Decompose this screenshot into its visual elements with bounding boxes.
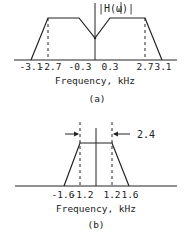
panel-a-tick: -0.3: [69, 61, 92, 72]
panel-b-tick: 1.2: [103, 189, 120, 200]
panel-a-center-dot: [94, 37, 96, 39]
panel-b-tick: -1.2: [71, 189, 94, 200]
panel-a-tick: 0.3: [101, 61, 118, 72]
arrow-left-icon: [113, 132, 130, 137]
panel-a-ylabel: |H(ω)|: [98, 3, 134, 15]
panel-a: |H(ω)| -3.1 -2.7 -0.3 0.3 2.7 3.1 Freque…: [14, 2, 177, 104]
panel-b-xlabel: Frequency, kHz: [56, 203, 136, 214]
panel-a-tick: 2.7: [136, 61, 153, 72]
panel-a-response-curve: [31, 18, 162, 60]
filter-response-diagram: |H(ω)| -3.1 -2.7 -0.3 0.3 2.7 3.1 Freque…: [0, 0, 189, 232]
panel-b-tick: 1.6: [121, 189, 138, 200]
panel-b: 2.4 -1.6 -1.2 1.2 1.6 Frequency, kHz (b): [15, 122, 177, 230]
panel-a-caption: (a): [88, 93, 105, 104]
panel-b-width-annotation: 2.4: [137, 129, 155, 140]
panel-a-xlabel: Frequency, kHz: [55, 75, 135, 86]
panel-a-tick: -2.7: [39, 61, 62, 72]
panel-b-caption: (b): [87, 219, 104, 230]
panel-a-tick: 3.1: [154, 61, 171, 72]
arrow-right-icon: [65, 132, 79, 137]
